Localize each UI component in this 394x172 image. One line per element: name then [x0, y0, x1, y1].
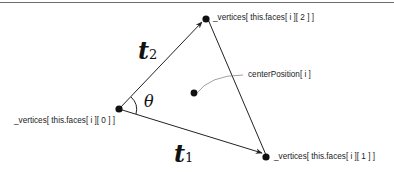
edge-v2-v1: [207, 17, 266, 155]
vertex-2-label: _vertices[ this.faces[ i ][ 2 ] ]: [213, 13, 314, 22]
t1-symbol: t1: [174, 139, 193, 168]
t2-arrow: [119, 22, 202, 109]
t2-symbol: t2: [138, 36, 157, 65]
vertex-1-label: _vertices[ this.faces[ i ][ 1 ] ]: [274, 152, 375, 161]
theta-symbol: θ: [144, 92, 154, 111]
triangle-diagram: [0, 0, 394, 172]
vertex-1-dot: [262, 153, 269, 160]
theta-arc: [131, 97, 137, 114]
vertex-2-dot: [202, 15, 209, 22]
center-label: centerPosition[ i ]: [248, 70, 311, 79]
vertex-0-dot: [115, 105, 122, 112]
vertex-0-label: _vertices[ this.faces[ i ][ 0 ] ]: [14, 116, 115, 125]
center-dot: [191, 90, 198, 97]
